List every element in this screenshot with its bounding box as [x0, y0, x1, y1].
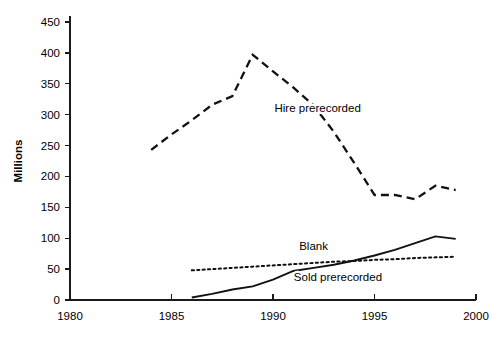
y-tick-label: 450 [41, 16, 60, 28]
y-tick-label: 100 [41, 232, 60, 244]
x-tick-label: 2000 [463, 310, 489, 322]
y-tick-label: 300 [41, 109, 60, 121]
y-tick-label: 150 [41, 201, 60, 213]
x-tick-group: 19801985199019952000 [57, 294, 489, 322]
y-tick-label: 350 [41, 78, 60, 90]
y-tick-label: 50 [47, 263, 60, 275]
series-label-sold-prerecorded: Sold prerecorded [294, 271, 382, 283]
y-axis-title: Millions [12, 140, 24, 183]
y-tick-label: 200 [41, 170, 60, 182]
x-axis: 19801985199019952000 [57, 294, 489, 322]
series-line-hire-prerecorded [151, 55, 456, 200]
series-label-group: Hire prerecordedHire prerecordedBlankBla… [275, 102, 383, 282]
chart-container: 050100150200250300350400450 198019851990… [0, 0, 500, 341]
y-tick-label: 400 [41, 47, 60, 59]
x-tick-label: 1985 [159, 310, 185, 322]
series-line-blank [192, 257, 456, 271]
series-label-blank: Blank [299, 240, 328, 252]
y-axis: 050100150200250300350400450 [41, 16, 70, 306]
x-tick-label: 1995 [362, 310, 388, 322]
series-group [151, 55, 456, 298]
y-tick-label: 250 [41, 140, 60, 152]
y-tick-label: 0 [54, 294, 60, 306]
series-label-hire-prerecorded: Hire prerecorded [275, 102, 361, 114]
line-chart: 050100150200250300350400450 198019851990… [0, 0, 500, 341]
y-tick-group: 050100150200250300350400450 [41, 16, 70, 306]
x-tick-label: 1980 [57, 310, 83, 322]
x-tick-label: 1990 [260, 310, 286, 322]
